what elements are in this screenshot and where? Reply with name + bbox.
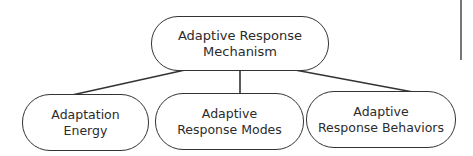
node-label-line: Mechanism [178, 44, 302, 60]
node-label-line: Adaptive Response [178, 28, 302, 44]
edge-root-to-adaptive-response-behaviors [295, 70, 413, 92]
page-edge-rule [460, 0, 462, 60]
node-label-line: Adaptive [318, 104, 444, 120]
node-label-line: Energy [51, 123, 119, 139]
node-label-line: Adaptation [51, 107, 119, 123]
node-label-line: Response Modes [177, 122, 282, 138]
node-adaptive-response-modes: Adaptive Response Modes [155, 93, 304, 150]
node-label-line: Response Behaviors [318, 120, 444, 136]
edge-root-to-adaptation-energy [72, 70, 185, 95]
node-adaptive-response-behaviors: Adaptive Response Behaviors [306, 91, 456, 148]
node-label-line: Adaptive [177, 106, 282, 122]
node-adaptive-response-mechanism: Adaptive Response Mechanism [151, 16, 329, 71]
node-adaptation-energy: Adaptation Energy [22, 94, 149, 151]
